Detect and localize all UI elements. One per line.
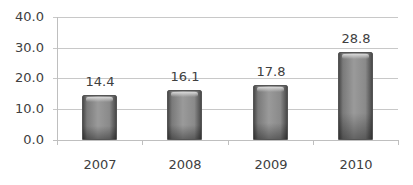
x-tick-mark [313,140,314,145]
data-label: 16.1 [155,70,215,84]
y-tick-label: 40.0 [0,10,44,24]
y-axis-line [57,17,58,145]
x-tick-label: 2009 [241,158,301,172]
x-tick-mark [228,140,229,145]
gridline [53,17,398,18]
bar-chart: 40.0 30.0 20.0 10.0 0.0 14.4 16.1 17.8 2… [0,0,413,185]
x-axis-line [53,140,398,141]
x-tick-mark [142,140,143,145]
data-label: 14.4 [70,75,130,89]
x-tick-mark [398,140,399,145]
data-label: 28.8 [326,32,386,46]
bar-2008 [167,90,202,140]
y-tick-label: 30.0 [0,41,44,55]
x-tick-label: 2007 [70,158,130,172]
y-tick-label: 10.0 [0,102,44,116]
gridline [53,48,398,49]
y-tick-label: 20.0 [0,71,44,85]
bar-2007 [82,95,117,140]
x-tick-label: 2010 [326,158,386,172]
bar-2009 [253,85,288,140]
x-tick-label: 2008 [155,158,215,172]
data-label: 17.8 [241,65,301,79]
y-tick-label: 0.0 [0,133,44,147]
bar-2010 [338,52,373,140]
